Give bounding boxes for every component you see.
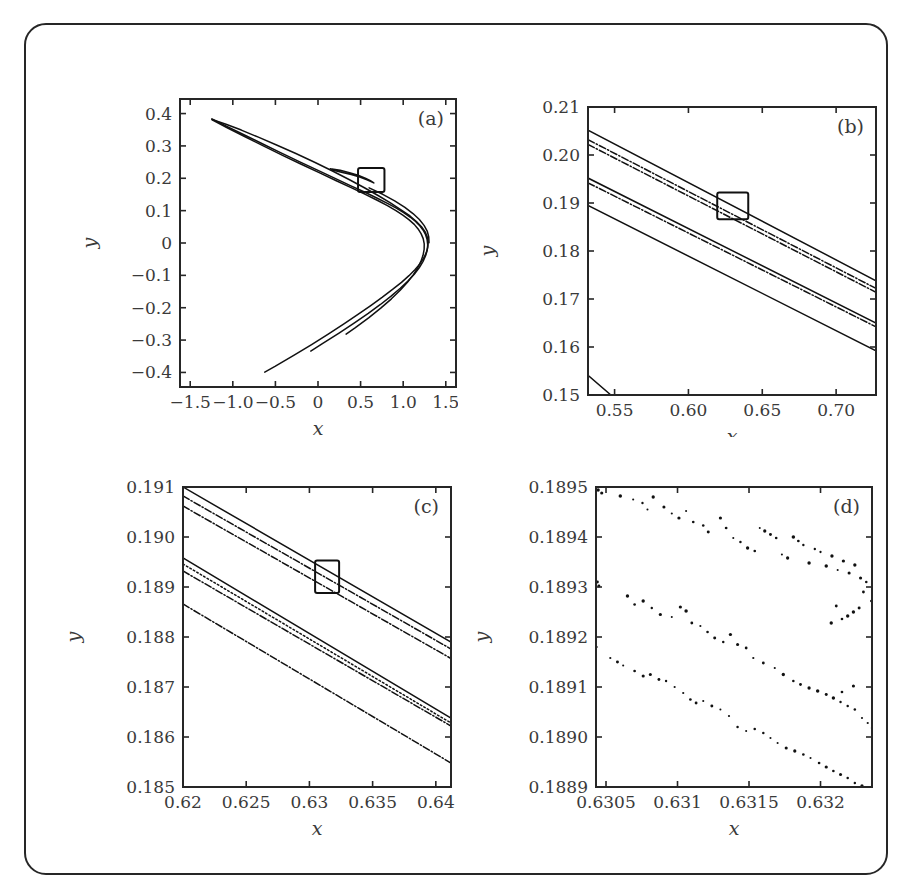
y-axis-title: y	[476, 245, 498, 257]
y-tick-label: 0.187	[126, 677, 175, 697]
scatter-point	[622, 664, 624, 666]
scatter-point	[769, 533, 772, 536]
scatter-point	[835, 605, 838, 608]
scatter-point	[626, 594, 629, 597]
panel-b-plot: 0.550.600.650.700.150.160.170.180.190.20…	[458, 37, 878, 437]
y-tick-label: 0.188	[126, 627, 175, 647]
y-tick-label: 0.17	[542, 289, 580, 309]
scatter-point	[799, 683, 802, 686]
scatter-point	[759, 527, 761, 529]
scatter-point	[641, 502, 643, 504]
scatter-point	[818, 762, 821, 765]
scatter-point	[825, 564, 828, 567]
scatter-point	[706, 631, 709, 634]
y-tick-label: 0.190	[126, 527, 175, 547]
x-tick-label: 0.6315	[719, 792, 778, 812]
scatter-point	[736, 643, 739, 646]
scatter-point	[816, 689, 819, 692]
scatter-point	[775, 537, 778, 540]
scatter-point	[725, 527, 728, 530]
x-tick-label: −1.0	[212, 392, 253, 412]
panel-tag-label: (c)	[414, 495, 439, 517]
x-axis-title: x	[312, 817, 323, 839]
scatter-point	[839, 773, 842, 776]
scatter-point	[679, 605, 682, 608]
series-band-5-dotted	[183, 564, 451, 723]
scatter-point	[745, 647, 748, 650]
scatter-point	[854, 708, 857, 711]
x-tick-label: −1.5	[170, 392, 211, 412]
scatter-point	[814, 548, 816, 550]
y-tick-label: 0.1892	[529, 627, 588, 647]
scatter-point	[682, 692, 684, 694]
scatter-point	[632, 498, 634, 500]
scatter-point	[729, 633, 732, 636]
y-tick-label: 0.1893	[529, 577, 588, 597]
scatter-point	[728, 715, 730, 717]
y-tick-label: 0.191	[126, 477, 175, 497]
scatter-point	[785, 746, 788, 749]
x-tick-label: 0.625	[222, 792, 271, 812]
scatter-point	[685, 510, 687, 512]
scatter-point	[665, 680, 667, 682]
y-tick-label: −0.2	[131, 298, 172, 318]
scatter-point	[699, 625, 701, 627]
scatter-point	[792, 680, 795, 683]
scatter-point	[786, 556, 789, 559]
scatter-point	[671, 512, 673, 514]
scatter-point	[736, 726, 738, 728]
scatter-point	[867, 722, 869, 724]
scatter-point	[807, 561, 810, 564]
axes-frame	[180, 99, 456, 387]
scatter-point	[692, 521, 695, 524]
series-band-4-solid	[588, 178, 876, 323]
scatter-point	[830, 621, 833, 624]
panel-d-plot: 0.63050.6310.63150.6320.18890.18900.1891…	[458, 437, 878, 857]
scatter-point	[753, 550, 756, 553]
y-tick-label: 0.18	[542, 241, 580, 261]
scatter-point	[839, 701, 841, 703]
panel-a-plot: −1.5−1.0−0.500.51.01.5−0.4−0.3−0.2−0.100…	[38, 37, 458, 437]
scatter-point	[719, 516, 722, 519]
figure-outer-frame: −1.5−1.0−0.500.51.01.5−0.4−0.3−0.2−0.100…	[24, 23, 888, 875]
x-tick-label: 1.5	[432, 392, 458, 412]
scatter-point	[852, 684, 855, 687]
scatter-point	[609, 657, 611, 659]
scatter-point	[600, 491, 603, 494]
y-tick-label: 0.16	[542, 337, 580, 357]
scatter-point	[802, 753, 805, 756]
scatter-point	[674, 686, 676, 688]
x-tick-label: −0.5	[255, 392, 296, 412]
y-tick-label: 0.1891	[529, 677, 588, 697]
series-band-2-dash-dot	[588, 140, 876, 289]
scatter-point	[722, 641, 724, 643]
scatter-point	[710, 705, 713, 708]
scatter-point	[846, 777, 848, 779]
scatter-point	[852, 610, 855, 613]
scatter-point	[649, 673, 652, 676]
y-tick-label: −0.1	[131, 265, 172, 285]
scatter-point	[865, 581, 868, 584]
scatter-point	[858, 607, 861, 610]
x-tick-label: 0.631	[653, 792, 702, 812]
scatter-point	[752, 657, 754, 659]
scatter-point	[802, 544, 804, 546]
series-band-6-solid-bottom	[588, 205, 876, 350]
x-axis-title: x	[727, 425, 738, 437]
scatter-point	[809, 757, 811, 759]
y-tick-label: 0.189	[126, 577, 175, 597]
panel-tag-label: (d)	[833, 495, 860, 517]
y-tick-label: 0.20	[542, 145, 580, 165]
scatter-point	[842, 559, 845, 562]
x-tick-label: 0.55	[596, 400, 634, 420]
y-tick-label: 0.3	[145, 136, 172, 156]
y-tick-label: 0.1894	[529, 527, 588, 547]
panel-b: 0.550.600.650.700.150.160.170.180.190.20…	[458, 37, 878, 437]
scatter-point	[616, 661, 619, 664]
scatter-point	[732, 537, 734, 539]
scatter-point	[695, 702, 698, 705]
plot-data-area	[588, 130, 876, 395]
axes-frame	[183, 487, 451, 787]
scatter-point	[854, 782, 856, 784]
scatter-point	[825, 693, 828, 696]
